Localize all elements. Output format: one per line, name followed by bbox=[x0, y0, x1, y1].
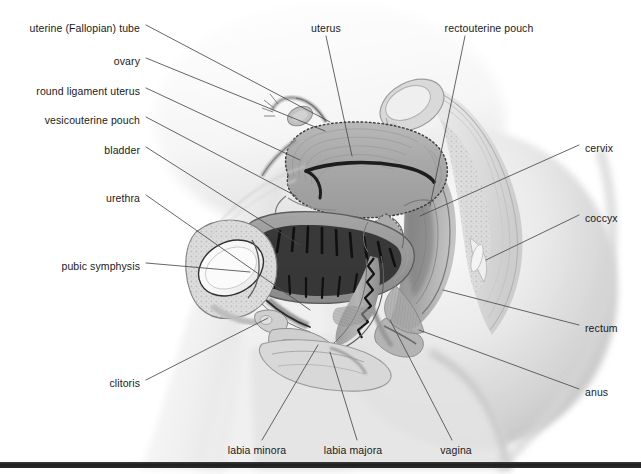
label-bladder: bladder bbox=[104, 144, 140, 156]
label-uterine-fallopian-tube: uterine (Fallopian) tube bbox=[30, 22, 140, 34]
label-ovary: ovary bbox=[114, 55, 140, 67]
leader-lines bbox=[0, 0, 641, 474]
leader-vesicouterine-pouch bbox=[146, 117, 296, 196]
leader-cervix bbox=[420, 145, 579, 216]
label-anus: anus bbox=[585, 386, 608, 398]
label-pubic-symphysis: pubic symphysis bbox=[61, 260, 140, 272]
leader-bladder bbox=[146, 147, 300, 245]
label-rectum: rectum bbox=[585, 322, 618, 334]
leader-ovary bbox=[146, 58, 325, 131]
label-vagina: vagina bbox=[440, 444, 472, 456]
label-urethra: urethra bbox=[106, 192, 140, 204]
leader-round-ligament bbox=[146, 88, 300, 160]
label-round-ligament-uterus: round ligament uterus bbox=[36, 85, 140, 97]
leader-anus bbox=[419, 330, 579, 389]
label-rectouterine-pouch: rectouterine pouch bbox=[445, 22, 534, 34]
label-clitoris: clitoris bbox=[109, 377, 140, 389]
label-coccyx: coccyx bbox=[585, 212, 618, 224]
leader-pubic-symphysis bbox=[146, 263, 250, 272]
label-labia-majora: labia majora bbox=[324, 444, 382, 456]
leader-uterine-tube bbox=[146, 25, 330, 122]
leader-rectum bbox=[443, 290, 579, 325]
leader-clitoris bbox=[146, 318, 268, 380]
label-vesicouterine-pouch: vesicouterine pouch bbox=[45, 114, 140, 126]
leader-labia-minora bbox=[262, 345, 318, 440]
label-cervix: cervix bbox=[585, 142, 613, 154]
leader-rectouterine-pouch bbox=[430, 36, 465, 206]
bottom-rule bbox=[0, 462, 641, 468]
leader-uterus bbox=[326, 36, 352, 156]
leader-urethra bbox=[146, 195, 310, 310]
label-uterus: uterus bbox=[311, 22, 341, 34]
leader-labia-majora bbox=[330, 352, 357, 440]
leader-coccyx bbox=[486, 215, 579, 260]
label-labia-minora: labia minora bbox=[228, 444, 286, 456]
leader-vagina bbox=[390, 320, 452, 440]
anatomy-figure: uterine (Fallopian) tubeovaryround ligam… bbox=[0, 0, 641, 474]
